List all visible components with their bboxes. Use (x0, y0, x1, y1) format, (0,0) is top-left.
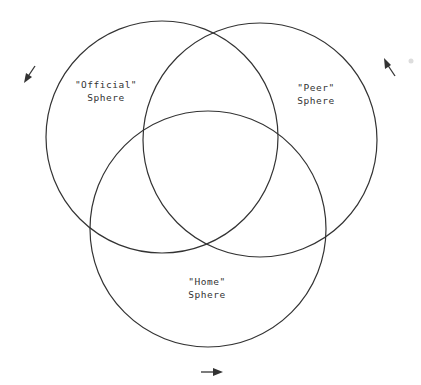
home-label-line1: "Home" (162, 275, 252, 288)
arrow-right-icon (201, 368, 223, 376)
peer-label-line1: "Peer" (271, 81, 361, 94)
peer-sphere-label: "Peer" Sphere (271, 81, 361, 107)
official-sphere-label: "Official" Sphere (61, 78, 151, 104)
official-label-line1: "Official" (61, 78, 151, 91)
home-sphere-label: "Home" Sphere (162, 275, 252, 301)
arrow-up-left-icon (384, 58, 395, 76)
faint-mark (409, 59, 414, 64)
arrow-down-left-icon (24, 66, 35, 83)
home-label-line2: Sphere (162, 288, 252, 301)
peer-label-line2: Sphere (271, 94, 361, 107)
home-sphere-circle (90, 111, 326, 347)
venn-diagram (0, 0, 421, 385)
official-label-line2: Sphere (61, 91, 151, 104)
peer-sphere-circle (143, 23, 377, 257)
official-sphere-circle (46, 21, 278, 253)
